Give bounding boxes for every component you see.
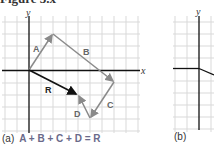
panel-a-grid [2,16,140,133]
panel-b-vector-partial [199,69,214,76]
vector-r-label: R [45,85,52,95]
vector-d-label: D [74,109,81,119]
vector-addition-figure: Figure 3.x y x [0,0,214,147]
figure-canvas: y x A B R C D y [0,0,214,147]
vector-c-label: C [107,100,114,110]
vector-b-label: B [83,47,90,57]
figure-title: Figure 3.x [0,0,56,7]
panel-a-x-label: x [140,65,146,76]
panel-a-y-label: y [25,7,31,18]
panel-a-caption-label: (a) [2,133,14,144]
vector-a-label: A [33,44,40,54]
vector-sum-equation: A + B + C + D = R [19,133,100,144]
panel-b-grid [173,16,214,132]
panel-a-caption: (a)A + B + C + D = R [2,133,101,144]
panel-b-y-label: y [195,6,201,17]
panel-b-caption: (b) [174,131,186,142]
